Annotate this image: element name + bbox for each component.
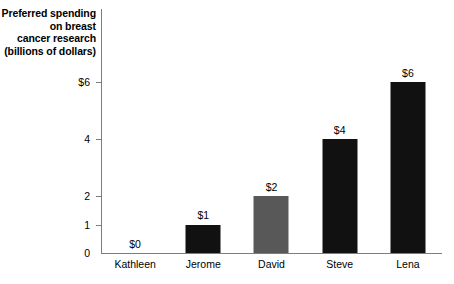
- y-tick-label-1: 1: [30, 220, 90, 231]
- bar-lena[interactable]: [390, 82, 425, 253]
- bar-group-lena: $6: [374, 0, 442, 253]
- bar-value-label-steve: $4: [334, 125, 346, 136]
- bar-group-kathleen: $0: [101, 0, 169, 253]
- bar-group-jerome: $1: [169, 0, 237, 253]
- y-axis-title-line-4: (billions of dollars): [0, 45, 96, 58]
- y-tick-label-0: 0: [30, 248, 90, 259]
- bar-value-label-david: $2: [266, 182, 278, 193]
- y-tick-label-6: $6: [30, 77, 90, 88]
- y-axis-title: Preferred spending on breast cancer rese…: [0, 7, 96, 57]
- x-category-label-lena: Lena: [368, 259, 448, 270]
- bar-jerome[interactable]: [186, 225, 221, 254]
- bar-steve[interactable]: [322, 139, 357, 253]
- bar-group-david: $2: [237, 0, 305, 253]
- y-axis-title-line-2: on breast: [0, 20, 96, 33]
- bar-chart: Preferred spending on breast cancer rese…: [0, 0, 454, 284]
- y-tick-label-2: 2: [30, 191, 90, 202]
- bar-david[interactable]: [254, 196, 289, 253]
- y-tick-label-4: 4: [30, 134, 90, 145]
- bar-group-steve: $4: [306, 0, 374, 253]
- bar-value-label-kathleen: $0: [129, 239, 141, 250]
- y-axis-title-line-3: cancer research: [0, 32, 96, 45]
- y-axis-title-line-1: Preferred spending: [0, 7, 96, 20]
- bar-value-label-jerome: $1: [197, 210, 209, 221]
- plot-area: $0Kathleen$1Jerome$2David$4Steve$6Lena: [101, 0, 442, 284]
- bar-value-label-lena: $6: [402, 68, 414, 79]
